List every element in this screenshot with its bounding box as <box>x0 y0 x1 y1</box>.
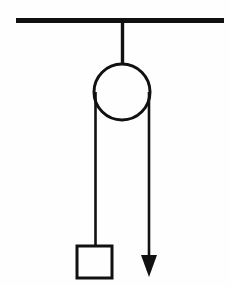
pulley-diagram-svg <box>0 0 230 286</box>
pulley-diagram-canvas <box>0 0 230 286</box>
diagram-background <box>0 0 230 286</box>
